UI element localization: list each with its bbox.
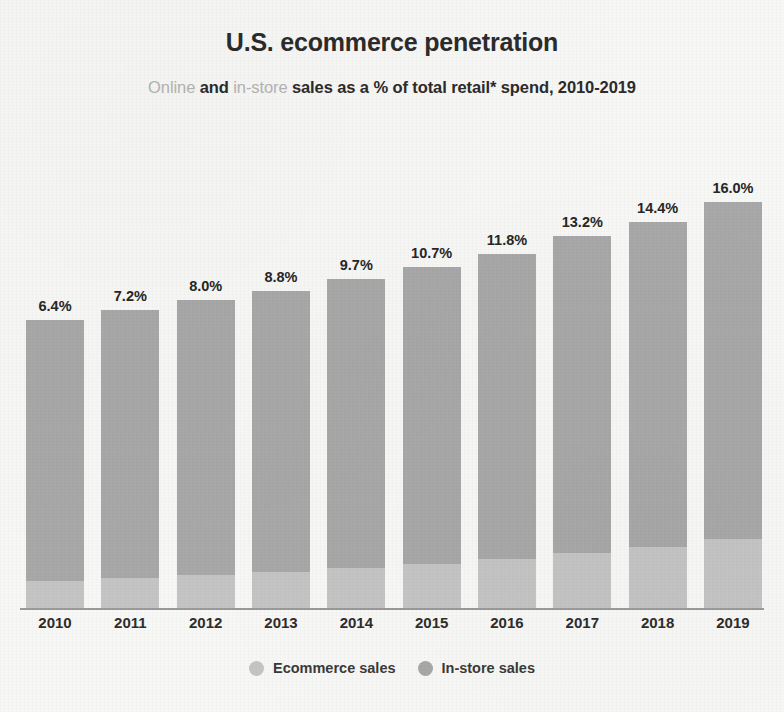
bar-slot-2019[interactable]: 16.0% [704, 150, 762, 610]
bar-stack[interactable] [177, 300, 235, 610]
bar-segment-in-store[interactable] [553, 236, 611, 553]
bar-stack[interactable] [553, 236, 611, 610]
bar-stack[interactable] [252, 291, 310, 611]
x-axis-tick-2019: 2019 [704, 614, 762, 631]
bar-segment-ecommerce[interactable] [26, 581, 84, 610]
legend-swatch-icon [418, 661, 433, 676]
x-axis-tick-2013: 2013 [252, 614, 310, 631]
bar-segment-in-store[interactable] [252, 291, 310, 573]
chart-title: U.S. ecommerce penetration [0, 28, 784, 57]
bar-stack[interactable] [101, 310, 159, 610]
legend-swatch-icon [249, 661, 264, 676]
legend-label: In-store sales [442, 660, 536, 676]
x-axis-tick-2014: 2014 [327, 614, 385, 631]
bar-segment-in-store[interactable] [177, 300, 235, 575]
bar-slot-2011[interactable]: 7.2% [101, 150, 159, 610]
bar-segment-in-store[interactable] [403, 267, 461, 564]
bar-segment-in-store[interactable] [327, 279, 385, 568]
bar-segment-in-store[interactable] [629, 222, 687, 547]
x-axis-tick-2011: 2011 [101, 614, 159, 631]
x-axis-tick-2012: 2012 [177, 614, 235, 631]
chart-legend: Ecommerce salesIn-store sales [0, 660, 784, 676]
bar-segment-in-store[interactable] [704, 202, 762, 539]
bar-stack[interactable] [403, 267, 461, 610]
bar-value-label: 8.0% [165, 278, 247, 294]
bar-slot-2010[interactable]: 6.4% [26, 150, 84, 610]
bar-slot-2016[interactable]: 11.8% [478, 150, 536, 610]
bar-slot-2014[interactable]: 9.7% [327, 150, 385, 610]
legend-label: Ecommerce sales [273, 660, 396, 676]
bar-slot-2015[interactable]: 10.7% [403, 150, 461, 610]
bar-value-label: 13.2% [541, 214, 623, 230]
bar-value-label: 11.8% [466, 232, 548, 248]
plot-area: 6.4%7.2%8.0%8.8%9.7%10.7%11.8%13.2%14.4%… [26, 150, 762, 610]
bar-value-label: 9.7% [315, 257, 397, 273]
bar-segment-in-store[interactable] [26, 320, 84, 581]
bar-value-label: 8.8% [240, 269, 322, 285]
bar-value-label: 16.0% [692, 180, 774, 196]
x-axis-tick-2016: 2016 [478, 614, 536, 631]
bar-segment-ecommerce[interactable] [704, 539, 762, 610]
bar-group: 6.4%7.2%8.0%8.8%9.7%10.7%11.8%13.2%14.4%… [26, 150, 762, 610]
bar-segment-ecommerce[interactable] [403, 564, 461, 610]
bar-stack[interactable] [704, 202, 762, 610]
bar-segment-ecommerce[interactable] [327, 568, 385, 610]
bar-segment-ecommerce[interactable] [478, 559, 536, 610]
x-axis-tick-2018: 2018 [629, 614, 687, 631]
bar-stack[interactable] [26, 320, 84, 610]
bar-segment-ecommerce[interactable] [629, 547, 687, 610]
legend-item-ecommerce-sales[interactable]: Ecommerce sales [249, 660, 396, 676]
x-axis-tick-2010: 2010 [26, 614, 84, 631]
chart-subtitle: Online and in-store sales as a % of tota… [0, 78, 784, 97]
ecommerce-penetration-chart: U.S. ecommerce penetration Online and in… [0, 0, 784, 712]
bar-value-label: 14.4% [617, 200, 699, 216]
bar-slot-2013[interactable]: 8.8% [252, 150, 310, 610]
bar-segment-in-store[interactable] [101, 310, 159, 578]
bar-segment-ecommerce[interactable] [101, 578, 159, 610]
bar-slot-2012[interactable]: 8.0% [177, 150, 235, 610]
bar-stack[interactable] [629, 222, 687, 610]
bar-segment-in-store[interactable] [478, 254, 536, 559]
x-axis-tick-2015: 2015 [403, 614, 461, 631]
x-axis-labels: 2010201120122013201420152016201720182019 [26, 614, 762, 631]
bar-stack[interactable] [327, 279, 385, 610]
subtitle-part-and: and [195, 78, 233, 96]
legend-item-in-store-sales[interactable]: In-store sales [418, 660, 536, 676]
subtitle-part-instore: in-store [233, 78, 287, 96]
x-axis-tick-2017: 2017 [553, 614, 611, 631]
bar-slot-2018[interactable]: 14.4% [629, 150, 687, 610]
subtitle-part-rest: sales as a % of total retail* spend, 201… [287, 78, 635, 96]
bar-segment-ecommerce[interactable] [177, 575, 235, 610]
x-axis-line [20, 608, 764, 610]
bar-segment-ecommerce[interactable] [553, 553, 611, 610]
bar-segment-ecommerce[interactable] [252, 572, 310, 610]
bar-slot-2017[interactable]: 13.2% [553, 150, 611, 610]
bar-stack[interactable] [478, 254, 536, 610]
bar-value-label: 6.4% [14, 298, 96, 314]
bar-value-label: 7.2% [89, 288, 171, 304]
subtitle-part-online: Online [148, 78, 195, 96]
bar-value-label: 10.7% [391, 245, 473, 261]
